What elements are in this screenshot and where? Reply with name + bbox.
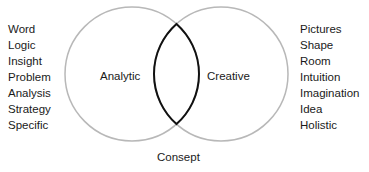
list-item: Strategy <box>8 101 51 117</box>
list-item: Pictures <box>300 21 359 37</box>
list-item: Intuition <box>300 69 359 85</box>
list-item: Analysis <box>8 85 51 101</box>
list-item: Problem <box>8 69 51 85</box>
list-item: Holistic <box>300 117 359 133</box>
list-item: Logic <box>8 37 51 53</box>
list-item: Word <box>8 21 51 37</box>
list-item: Idea <box>300 101 359 117</box>
list-item: Insight <box>8 53 51 69</box>
list-item: Shape <box>300 37 359 53</box>
intersection-lens <box>154 24 199 124</box>
analytic-label: Analytic <box>100 69 140 83</box>
consept-label: Consept <box>157 150 200 164</box>
creative-attributes-list: Pictures Shape Room Intuition Imaginatio… <box>300 21 359 133</box>
analytic-attributes-list: Word Logic Insight Problem Analysis Stra… <box>8 21 51 133</box>
list-item: Room <box>300 53 359 69</box>
list-item: Specific <box>8 117 51 133</box>
creative-label: Creative <box>207 69 250 83</box>
list-item: Imagination <box>300 85 359 101</box>
